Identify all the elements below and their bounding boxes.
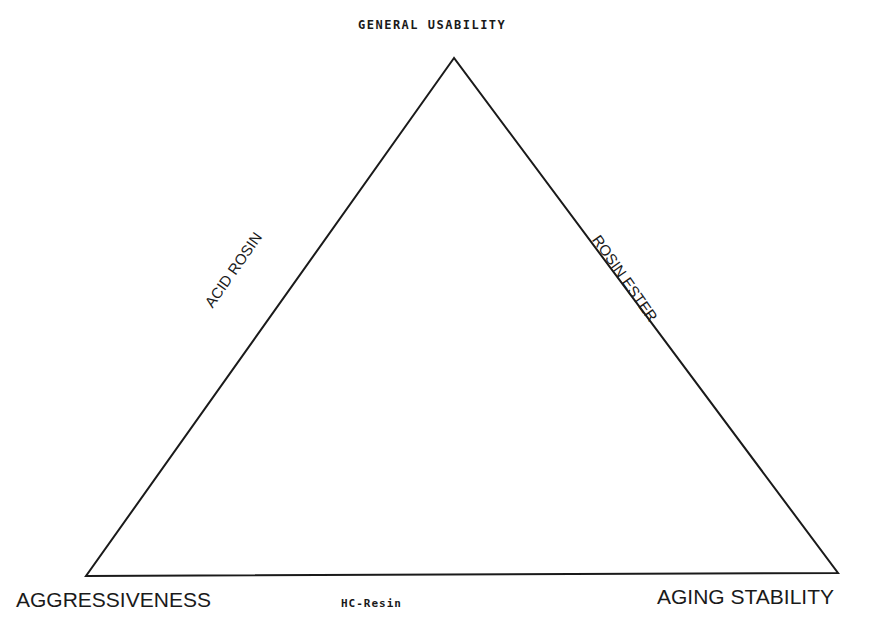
vertex-label-aging-stability: AGING STABILITY xyxy=(657,585,834,609)
edge-label-hc-resin: HC-Resin xyxy=(341,597,402,610)
resin-triangle-diagram: GENERAL USABILITY AGGRESSIVENESS AGING S… xyxy=(0,0,873,631)
vertex-label-general-usability: GENERAL USABILITY xyxy=(358,18,506,32)
vertex-label-aggressiveness: AGGRESSIVENESS xyxy=(16,588,211,612)
triangle-shape xyxy=(0,0,873,631)
